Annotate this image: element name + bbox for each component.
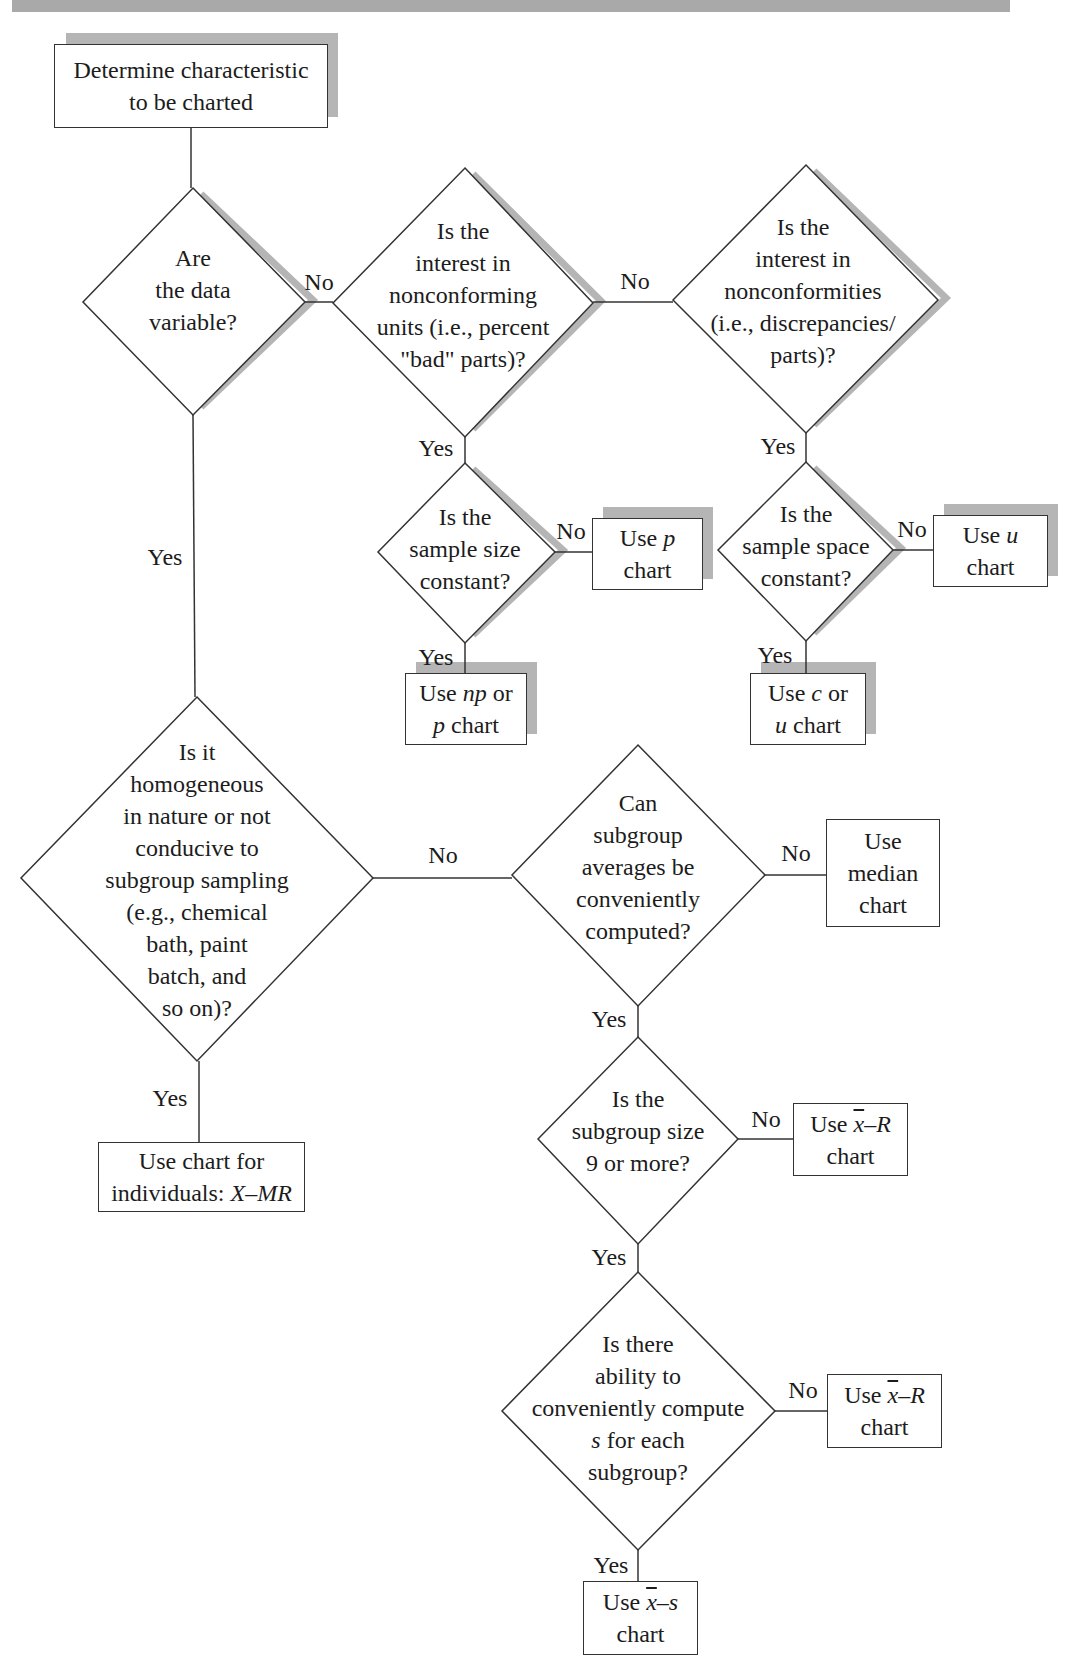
result-line: chart [967, 551, 1015, 583]
question-compute-s: Is there ability to conveniently compute… [532, 1328, 745, 1488]
result-line: u chart [775, 709, 841, 741]
result-line: chart [827, 1140, 875, 1172]
question-line: nonconformities [710, 275, 895, 307]
variable-x-mr: X–MR [231, 1180, 292, 1206]
result-line: chart [861, 1411, 909, 1443]
result-p-chart: Use p chart [592, 518, 703, 590]
question-line: "bad" parts)? [377, 343, 550, 375]
question-line: bath, paint [105, 928, 288, 960]
start-box: Determine characteristic to be charted [54, 44, 328, 128]
question-line: interest in [710, 243, 895, 275]
edge-label-no: No [897, 515, 926, 543]
question-line: conducive to [105, 832, 288, 864]
variable-u: u [775, 712, 787, 738]
result-line: Use x–R [810, 1108, 891, 1140]
result-text: Use [963, 522, 1006, 548]
question-line: (i.e., discrepancies/ [710, 307, 895, 339]
question-line: Is the [377, 215, 550, 247]
question-line: conveniently compute [532, 1392, 745, 1424]
question-line: averages be [576, 851, 700, 883]
edge-label-no: No [620, 267, 649, 295]
variable-s: –s [657, 1589, 678, 1615]
question-line: homogeneous [105, 768, 288, 800]
result-text: chart [445, 712, 499, 738]
result-line: p chart [433, 709, 499, 741]
variable-p: p [663, 525, 675, 551]
result-individuals-chart: Use chart for individuals: X–MR [98, 1142, 305, 1212]
variable-xbar: x [854, 1111, 865, 1137]
question-subgroup-size: Is the subgroup size 9 or more? [572, 1083, 705, 1179]
result-line: median [848, 857, 919, 889]
result-median-chart: Use median chart [826, 819, 940, 927]
result-xbar-r-chart-2: Use x–R chart [827, 1374, 942, 1448]
edge-label-no: No [428, 841, 457, 869]
result-line: Use u [963, 519, 1018, 551]
result-text: Use [844, 1382, 887, 1408]
edge-label-no: No [751, 1105, 780, 1133]
question-line: batch, and [105, 960, 288, 992]
result-np-or-p-chart: Use np or p chart [405, 673, 527, 745]
result-text: Use [603, 1589, 646, 1615]
question-line: nonconforming [377, 279, 550, 311]
variable-np: np [463, 680, 487, 706]
result-line: chart [617, 1618, 665, 1650]
variable-r: –R [898, 1382, 925, 1408]
variable-s: s [591, 1427, 600, 1453]
question-line: units (i.e., percent [377, 311, 550, 343]
question-line: ability to [532, 1360, 745, 1392]
result-line: Use p [620, 522, 675, 554]
result-line: Use np or [419, 677, 512, 709]
question-sample-size: Is the sample size constant? [409, 501, 520, 597]
question-line: Is the [409, 501, 520, 533]
edge-label-yes: Yes [153, 1084, 188, 1112]
result-text: or [822, 680, 848, 706]
edge-label-yes: Yes [592, 1243, 627, 1271]
result-line: individuals: X–MR [111, 1177, 292, 1209]
result-xbar-r-chart: Use x–R chart [793, 1103, 908, 1176]
question-line: subgroup? [532, 1456, 745, 1488]
result-text: Use [768, 680, 811, 706]
question-line: subgroup [576, 819, 700, 851]
edge-label-yes: Yes [419, 643, 454, 671]
result-line: Use x–R [844, 1379, 925, 1411]
question-nonconformities: Is the interest in nonconformities (i.e.… [710, 211, 895, 371]
question-line: Is the [742, 498, 869, 530]
edge-label-no: No [304, 268, 333, 296]
question-averages: Can subgroup averages be conveniently co… [576, 787, 700, 947]
result-line: Use c or [768, 677, 848, 709]
result-xbar-s-chart: Use x–s chart [583, 1581, 698, 1655]
question-line: sample size [409, 533, 520, 565]
question-homogeneous: Is it homogeneous in nature or not condu… [105, 736, 288, 1024]
edge-label-yes: Yes [761, 432, 796, 460]
question-line: Are [149, 242, 237, 274]
edge-label-no: No [556, 517, 585, 545]
question-nonconforming-units: Is the interest in nonconforming units (… [377, 215, 550, 375]
start-box-line: Determine characteristic [73, 54, 308, 86]
question-line: Is the [710, 211, 895, 243]
variable-xbar: x [888, 1382, 899, 1408]
question-line: constant? [409, 565, 520, 597]
question-line: constant? [742, 562, 869, 594]
variable-r: –R [864, 1111, 891, 1137]
variable-p: p [433, 712, 445, 738]
start-box-line: to be charted [129, 86, 253, 118]
result-text: or [487, 680, 513, 706]
question-line: conveniently [576, 883, 700, 915]
result-line: chart [859, 889, 907, 921]
result-line: Use chart for [139, 1145, 264, 1177]
question-line: Can [576, 787, 700, 819]
question-line-text: for each [601, 1427, 685, 1453]
question-line: interest in [377, 247, 550, 279]
result-u-chart: Use u chart [933, 515, 1048, 587]
control-chart-selection-flowchart: Determine characteristic to be charted A… [0, 0, 1091, 1675]
question-line: Is there [532, 1328, 745, 1360]
result-text: individuals: [111, 1180, 230, 1206]
edge-label-yes: Yes [758, 641, 793, 669]
question-line: in nature or not [105, 800, 288, 832]
result-text: Use [620, 525, 663, 551]
question-sample-space: Is the sample space constant? [742, 498, 869, 594]
result-text: Use [419, 680, 462, 706]
question-line: parts)? [710, 339, 895, 371]
variable-u: u [1006, 522, 1018, 548]
result-text: chart [787, 712, 841, 738]
